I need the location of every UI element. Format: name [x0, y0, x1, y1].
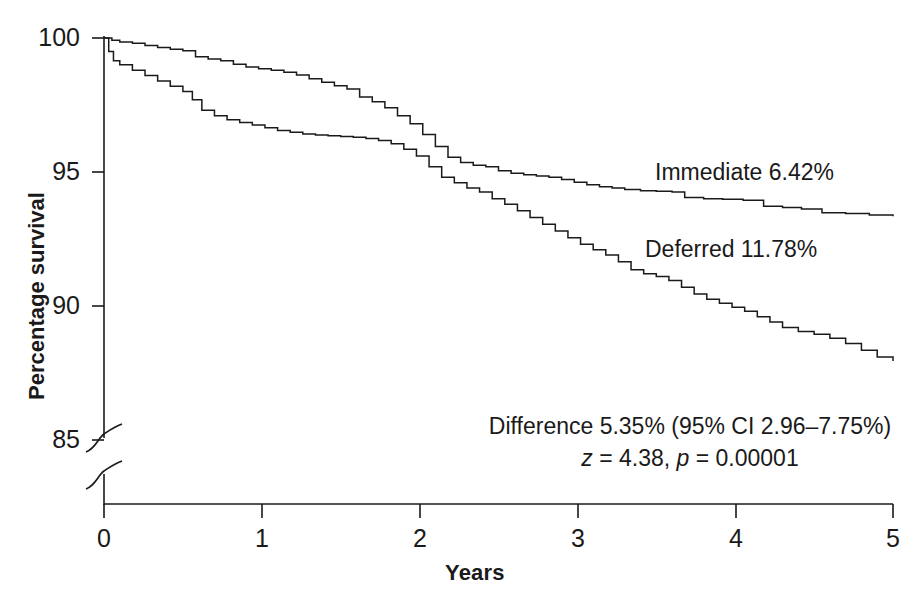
- immediate-curve-label: Immediate 6.42%: [655, 161, 834, 184]
- survival-chart-figure: 100 95 90 85 Percentage survival 0 1 2 3…: [0, 0, 910, 598]
- y-tick-label-95: 95: [0, 159, 80, 184]
- chart-canvas: [0, 0, 910, 598]
- x-axis-title: Years: [445, 562, 505, 584]
- p-symbol: p: [677, 445, 690, 471]
- statistics-annotation: z = 4.38, p = 0.00001: [460, 447, 910, 470]
- deferred-curve-label: Deferred 11.78%: [645, 238, 817, 261]
- x-tick-label-1: 1: [232, 526, 292, 551]
- z-value: = 4.38,: [593, 445, 677, 471]
- series-group: [104, 38, 893, 361]
- z-symbol: z: [581, 445, 593, 471]
- p-value: = 0.00001: [689, 445, 798, 471]
- y-tick-label-100: 100: [0, 25, 80, 50]
- y-tick-label-85: 85: [0, 427, 80, 452]
- x-tick-label-2: 2: [390, 526, 450, 551]
- series-line-immediate: [104, 38, 893, 216]
- x-tick-label-4: 4: [706, 526, 766, 551]
- x-tick-label-3: 3: [548, 526, 608, 551]
- y-axis-title: Percentage survival: [26, 192, 48, 400]
- series-line-deferred: [104, 38, 893, 361]
- x-tick-label-5: 5: [863, 526, 910, 551]
- x-tick-label-0: 0: [74, 526, 134, 551]
- difference-annotation: Difference 5.35% (95% CI 2.96–7.75%): [460, 415, 910, 438]
